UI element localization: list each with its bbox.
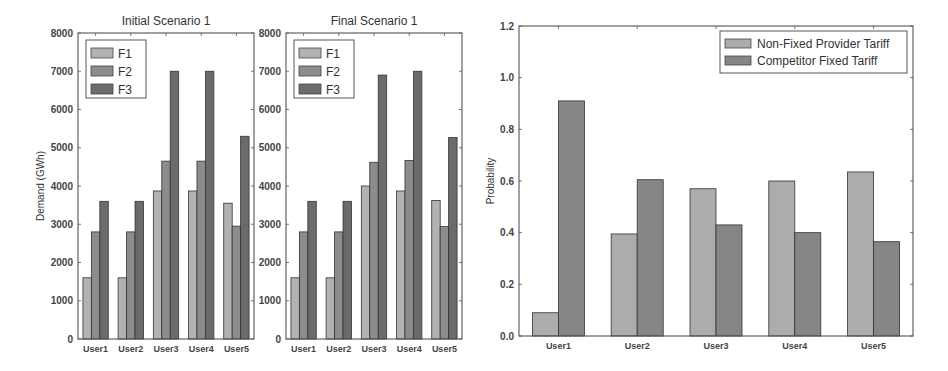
y-tick-label: 7000 — [259, 66, 282, 77]
bar-f3-user5 — [449, 137, 457, 339]
bar-f3-user4 — [413, 71, 421, 339]
legend-swatch — [91, 66, 113, 76]
bar-f1-user2 — [118, 278, 126, 339]
x-tick-label: User2 — [625, 341, 650, 351]
bar-f2-user5 — [232, 226, 240, 339]
bar-competitor-fixed-tariff-user2 — [637, 180, 663, 336]
y-tick-label: 0 — [275, 334, 281, 345]
legend-swatch — [91, 84, 113, 94]
bar-f1-user3 — [361, 186, 369, 339]
legend: F1F2F3 — [294, 40, 354, 98]
bar-f3-user3 — [170, 71, 178, 339]
y-tick-label: 1.2 — [500, 21, 514, 32]
x-tick-label: User4 — [189, 344, 214, 354]
bar-f1-user5 — [224, 203, 232, 339]
x-tick-label: User4 — [782, 341, 807, 351]
bar-f3-user5 — [241, 136, 249, 339]
bar-f2-user3 — [370, 162, 378, 339]
legend-label: F1 — [326, 47, 340, 61]
y-tick-label: 1000 — [259, 295, 282, 306]
legend: F1F2F3 — [86, 40, 146, 98]
legend-swatch — [299, 84, 321, 94]
bar-f2-user3 — [162, 161, 170, 339]
x-tick-label: User1 — [291, 344, 316, 354]
bar-f1-user1 — [83, 278, 91, 339]
legend-label: F3 — [118, 83, 132, 97]
bar-non-fixed-provider-tariff-user1 — [532, 313, 558, 336]
y-tick-label: 5000 — [51, 142, 74, 153]
bar-non-fixed-provider-tariff-user3 — [690, 189, 716, 336]
bar-f1-user3 — [153, 191, 161, 339]
legend-swatch — [725, 39, 751, 48]
chart-3: ProbabilityUser1User2User3User4User50.00… — [485, 21, 913, 352]
y-tick-label: 6000 — [51, 104, 74, 115]
y-tick-label: 2000 — [51, 257, 74, 268]
y-tick-label: 0.6 — [500, 176, 514, 187]
y-tick-label: 4000 — [259, 181, 282, 192]
bar-f3-user2 — [343, 201, 351, 339]
chart-2: Final Scenario 1User1User2User3User4User… — [259, 14, 462, 354]
x-tick-label: User5 — [432, 344, 457, 354]
bar-f3-user1 — [100, 201, 108, 339]
legend: Non-Fixed Provider TariffCompetitor Fixe… — [720, 31, 907, 73]
y-tick-label: 2000 — [259, 257, 282, 268]
y-axis-label: Probability — [485, 158, 496, 205]
bar-f2-user1 — [299, 232, 307, 339]
y-tick-label: 8000 — [259, 28, 282, 39]
bar-f3-user1 — [308, 201, 316, 339]
bar-f2-user1 — [91, 232, 99, 339]
bar-f3-user3 — [378, 75, 386, 339]
legend-label: F2 — [118, 65, 132, 79]
y-tick-label: 5000 — [259, 142, 282, 153]
bar-competitor-fixed-tariff-user5 — [874, 242, 900, 336]
x-tick-label: User5 — [861, 341, 886, 351]
bar-non-fixed-provider-tariff-user4 — [769, 181, 795, 336]
legend-label: Non-Fixed Provider Tariff — [757, 37, 890, 51]
bar-f2-user4 — [197, 161, 205, 339]
y-tick-label: 0 — [67, 334, 73, 345]
y-tick-label: 7000 — [51, 66, 74, 77]
chart-1: Initial Scenario 1Demand (GWh)User1User2… — [35, 14, 254, 354]
y-tick-label: 8000 — [51, 28, 74, 39]
legend-label: F3 — [326, 83, 340, 97]
y-tick-label: 0.2 — [500, 279, 514, 290]
bar-f2-user2 — [127, 232, 135, 339]
legend-swatch — [725, 56, 751, 65]
x-tick-label: User3 — [703, 341, 728, 351]
legend-label: Competitor Fixed Tariff — [757, 54, 878, 68]
bar-f1-user4 — [397, 191, 405, 339]
y-tick-label: 1000 — [51, 295, 74, 306]
bar-f2-user5 — [440, 227, 448, 339]
y-tick-label: 3000 — [259, 219, 282, 230]
y-tick-label: 0.4 — [500, 227, 514, 238]
bar-f1-user2 — [326, 278, 334, 339]
legend-swatch — [299, 48, 321, 58]
x-tick-label: User5 — [224, 344, 249, 354]
y-tick-label: 4000 — [51, 181, 74, 192]
x-tick-label: User4 — [397, 344, 422, 354]
figure: Initial Scenario 1Demand (GWh)User1User2… — [0, 0, 948, 371]
y-tick-label: 6000 — [259, 104, 282, 115]
legend-label: F2 — [326, 65, 340, 79]
bar-non-fixed-provider-tariff-user5 — [848, 172, 874, 336]
y-tick-label: 0.0 — [500, 331, 514, 342]
bar-f2-user4 — [405, 160, 413, 339]
legend-swatch — [299, 66, 321, 76]
bar-f3-user4 — [205, 71, 213, 339]
x-tick-label: User2 — [326, 344, 351, 354]
bar-non-fixed-provider-tariff-user2 — [611, 234, 637, 336]
bar-f1-user1 — [291, 278, 299, 339]
legend-label: F1 — [118, 47, 132, 61]
chart-title: Initial Scenario 1 — [122, 14, 211, 28]
bar-competitor-fixed-tariff-user1 — [558, 101, 584, 336]
y-axis-label: Demand (GWh) — [35, 151, 46, 221]
y-tick-label: 1.0 — [500, 72, 514, 83]
x-tick-label: User3 — [361, 344, 386, 354]
bar-f1-user4 — [189, 191, 197, 339]
x-tick-label: User3 — [153, 344, 178, 354]
bar-f3-user2 — [135, 201, 143, 339]
x-tick-label: User1 — [83, 344, 108, 354]
chart-title: Final Scenario 1 — [331, 14, 418, 28]
y-tick-label: 0.8 — [500, 124, 514, 135]
bar-f1-user5 — [432, 201, 440, 339]
